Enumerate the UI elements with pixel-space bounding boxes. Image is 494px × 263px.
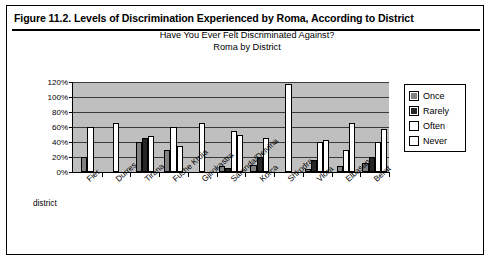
x-axis-tick bbox=[274, 172, 275, 177]
bar-never bbox=[323, 140, 329, 172]
chart-legend: Once Rarely Often Never bbox=[404, 84, 466, 152]
legend-swatch-once-icon bbox=[409, 91, 419, 101]
bar-never bbox=[199, 123, 205, 172]
x-axis-tick bbox=[159, 172, 160, 177]
legend-item-once[interactable]: Once bbox=[409, 88, 462, 103]
bar-never bbox=[381, 129, 387, 173]
legend-label-never: Never bbox=[423, 136, 447, 146]
y-axis-labels: 0%20%40%60%80%100%120% bbox=[30, 82, 68, 172]
gridline bbox=[73, 82, 389, 83]
bar-never bbox=[113, 123, 119, 172]
x-axis-tick bbox=[102, 172, 103, 177]
y-axis-tick-label: 0% bbox=[56, 168, 68, 177]
legend-label-once: Once bbox=[423, 91, 445, 101]
legend-item-never[interactable]: Never bbox=[409, 133, 462, 148]
y-axis-tick-label: 120% bbox=[48, 78, 68, 87]
legend-swatch-often-icon bbox=[409, 121, 419, 131]
y-axis-tick-label: 40% bbox=[52, 138, 68, 147]
x-axis-tick bbox=[245, 172, 246, 177]
y-axis-tick bbox=[69, 127, 73, 128]
x-axis-tick bbox=[188, 172, 189, 177]
gridline bbox=[73, 112, 389, 113]
legend-swatch-never-icon bbox=[409, 136, 419, 146]
bar-never bbox=[148, 136, 154, 172]
chart-title: Have You Ever Felt Discriminated Against… bbox=[0, 30, 494, 42]
legend-label-rarely: Rarely bbox=[423, 106, 449, 116]
x-axis-title: district bbox=[33, 199, 57, 208]
bar-never bbox=[87, 127, 93, 172]
bar-never bbox=[237, 135, 243, 173]
bar-never bbox=[177, 146, 183, 172]
legend-swatch-rarely-icon bbox=[409, 106, 419, 116]
y-axis-tick-label: 20% bbox=[52, 153, 68, 162]
bar-never bbox=[263, 138, 269, 172]
chart-title-block: Have You Ever Felt Discriminated Against… bbox=[0, 30, 494, 53]
x-axis-tick bbox=[360, 172, 361, 177]
y-axis-tick bbox=[69, 82, 73, 83]
plot-area bbox=[72, 82, 389, 173]
x-axis-tick bbox=[303, 172, 304, 177]
bar-never bbox=[285, 84, 291, 173]
bar-never bbox=[349, 123, 355, 173]
y-axis-tick-label: 100% bbox=[48, 93, 68, 102]
y-axis-tick bbox=[69, 157, 73, 158]
y-axis-tick bbox=[69, 97, 73, 98]
y-axis-tick bbox=[69, 172, 73, 173]
x-axis-tick bbox=[332, 172, 333, 177]
x-axis-tick bbox=[389, 172, 390, 177]
legend-label-often: Often bbox=[423, 121, 445, 131]
y-axis-tick-label: 80% bbox=[52, 108, 68, 117]
chart-subtitle: Roma by District bbox=[0, 42, 494, 54]
x-axis-tick bbox=[130, 172, 131, 177]
y-axis-tick bbox=[69, 142, 73, 143]
legend-item-rarely[interactable]: Rarely bbox=[409, 103, 462, 118]
legend-item-often[interactable]: Often bbox=[409, 118, 462, 133]
gridline bbox=[73, 127, 389, 128]
y-axis-tick bbox=[69, 112, 73, 113]
gridline bbox=[73, 97, 389, 98]
x-axis-tick bbox=[217, 172, 218, 177]
y-axis-tick-label: 60% bbox=[52, 123, 68, 132]
figure-caption: Figure 11.2. Levels of Discrimination Ex… bbox=[7, 6, 483, 29]
